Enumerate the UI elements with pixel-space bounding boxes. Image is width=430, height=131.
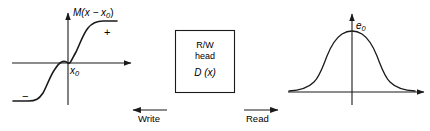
head-box-line1: R/W [175, 41, 235, 50]
diagram-vector-layer [0, 0, 430, 131]
left-chart-y-axis-label-subscript: 0 [106, 11, 110, 20]
recording-process-diagram: M(x − x0) + − x0 R/W head D (x) Write Re… [0, 0, 430, 131]
origin-x0-label-subscript: 0 [75, 69, 79, 78]
peak-e0-label: e0 [356, 21, 366, 31]
magnetization-curve-path [13, 21, 117, 101]
write-arrow-label: Write [138, 114, 160, 124]
peak-e0-label-subscript: 0 [362, 24, 366, 33]
positive-sign-label: + [104, 27, 110, 38]
read-arrow-label: Read [246, 114, 269, 124]
origin-x0-label: x0 [70, 66, 79, 76]
left-chart-y-axis-label-paren: ) [110, 7, 113, 18]
left-chart-y-axis-label: M(x − x0) [73, 8, 114, 18]
head-box-line2: head [175, 52, 235, 61]
left-chart-y-axis-label-main: M(x − x [73, 7, 106, 18]
peak-e0-label-main: e [356, 20, 362, 31]
negative-sign-label: − [22, 91, 28, 102]
head-box-line3: D (x) [175, 68, 235, 78]
